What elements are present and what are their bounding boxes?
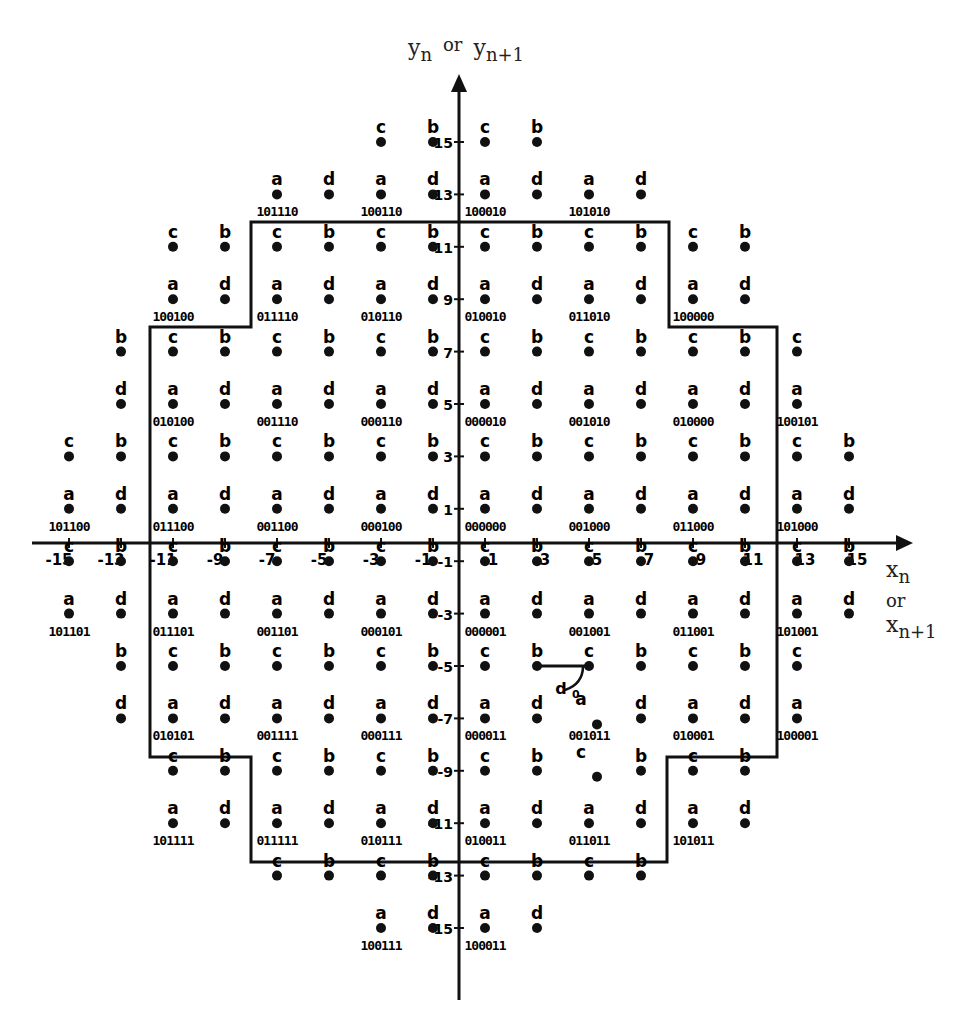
- subset-label-c: c: [376, 117, 386, 137]
- binary-code-label: 101111: [153, 833, 195, 848]
- subset-label-b: b: [427, 641, 439, 661]
- y-tick-label: -7: [437, 711, 453, 727]
- signal-point: [532, 871, 542, 881]
- signal-point: [376, 189, 386, 199]
- subset-label-b: b: [531, 222, 543, 242]
- subset-label-b: b: [427, 746, 439, 766]
- signal-point: [168, 818, 178, 828]
- signal-point: [584, 189, 594, 199]
- signal-point: [220, 818, 230, 828]
- y-axis-arrow-icon: [451, 74, 467, 92]
- signal-point: [480, 137, 490, 147]
- signal-point: [532, 451, 542, 461]
- subset-label-a: a: [687, 589, 698, 609]
- subset-label-d: d: [531, 379, 543, 399]
- subset-label-c: c: [272, 746, 282, 766]
- signal-point: [428, 713, 438, 723]
- signal-point: [584, 294, 594, 304]
- signal-point: [376, 923, 386, 933]
- binary-code-label: 010010: [465, 309, 507, 324]
- signal-point: [480, 399, 490, 409]
- signal-point: [584, 399, 594, 409]
- signal-point: [688, 399, 698, 409]
- subset-label-b: b: [739, 327, 751, 347]
- signal-point: [480, 923, 490, 933]
- binary-code-label: 101010: [569, 204, 611, 219]
- signal-point: [116, 556, 126, 566]
- subset-label-b: b: [531, 431, 543, 451]
- signal-point: [168, 399, 178, 409]
- signal-point: [532, 818, 542, 828]
- subset-label-c: c: [584, 851, 594, 871]
- signal-point: [376, 347, 386, 357]
- subset-label-d: d: [635, 484, 647, 504]
- signal-point: [428, 766, 438, 776]
- signal-point: [636, 661, 646, 671]
- signal-point: [64, 609, 74, 619]
- signal-point: [480, 661, 490, 671]
- signal-point: [64, 504, 74, 514]
- signal-point: [324, 451, 334, 461]
- signal-point: [428, 242, 438, 252]
- subset-label-a: a: [271, 693, 282, 713]
- binary-code-label: 010101: [153, 728, 195, 743]
- signal-point: [532, 347, 542, 357]
- signal-point: [220, 766, 230, 776]
- subset-label-a: a: [271, 379, 282, 399]
- subset-label-d: d: [323, 274, 335, 294]
- signal-point: [740, 242, 750, 252]
- binary-code-label: 100100: [153, 309, 195, 324]
- signal-point: [428, 871, 438, 881]
- signal-constellation-diagram: -15-13-11-9-7-5-3-1135791113151513119753…: [0, 0, 969, 1029]
- subset-label-a: a: [479, 798, 490, 818]
- signal-point: [740, 294, 750, 304]
- binary-code-label: 100101: [777, 414, 819, 429]
- signal-point: [376, 713, 386, 723]
- signal-point: [168, 451, 178, 461]
- subset-label-b: b: [635, 431, 647, 451]
- subset-label-d: d: [531, 274, 543, 294]
- subset-label-b: b: [219, 431, 231, 451]
- subset-label-b: b: [843, 431, 855, 451]
- subset-label-a: a: [63, 589, 74, 609]
- signal-point: [272, 294, 282, 304]
- subset-label-b: b: [323, 536, 335, 556]
- subset-label-d: d: [427, 903, 439, 923]
- signal-point: [376, 661, 386, 671]
- subset-label-c: c: [688, 536, 698, 556]
- signal-point: [220, 504, 230, 514]
- subset-label-a: a: [791, 484, 802, 504]
- subset-label-c: c: [480, 222, 490, 242]
- subset-label-b: b: [427, 431, 439, 451]
- subset-label-a: a: [687, 484, 698, 504]
- subset-label-d: d: [115, 379, 127, 399]
- subset-label-c: c: [272, 851, 282, 871]
- signal-point: [480, 871, 490, 881]
- subset-label-c: c: [480, 641, 490, 661]
- constellation-plot: -15-13-11-9-7-5-3-1135791113151513119753…: [0, 0, 969, 1029]
- signal-point: [376, 399, 386, 409]
- signal-point: [324, 661, 334, 671]
- signal-point: [220, 609, 230, 619]
- subset-label-b: b: [427, 536, 439, 556]
- subset-label-b: b: [635, 536, 647, 556]
- subset-label-d: d: [323, 589, 335, 609]
- signal-point: [220, 294, 230, 304]
- subset-label-a: a: [167, 589, 178, 609]
- signal-point: [532, 713, 542, 723]
- subset-label-b: b: [843, 536, 855, 556]
- subset-label-a: a: [583, 589, 594, 609]
- signal-point: [220, 347, 230, 357]
- x-axis-title: xn or xn+1: [886, 558, 937, 644]
- signal-point: [636, 713, 646, 723]
- subset-label-d: d: [115, 693, 127, 713]
- signal-point: [220, 399, 230, 409]
- subset-label-d: d: [635, 274, 647, 294]
- subset-label-c: c: [376, 536, 386, 556]
- y-tick-label: 5: [443, 397, 453, 413]
- signal-point: [272, 504, 282, 514]
- signal-point: [220, 242, 230, 252]
- signal-point: [792, 713, 802, 723]
- signal-point: [480, 294, 490, 304]
- signal-point: [272, 661, 282, 671]
